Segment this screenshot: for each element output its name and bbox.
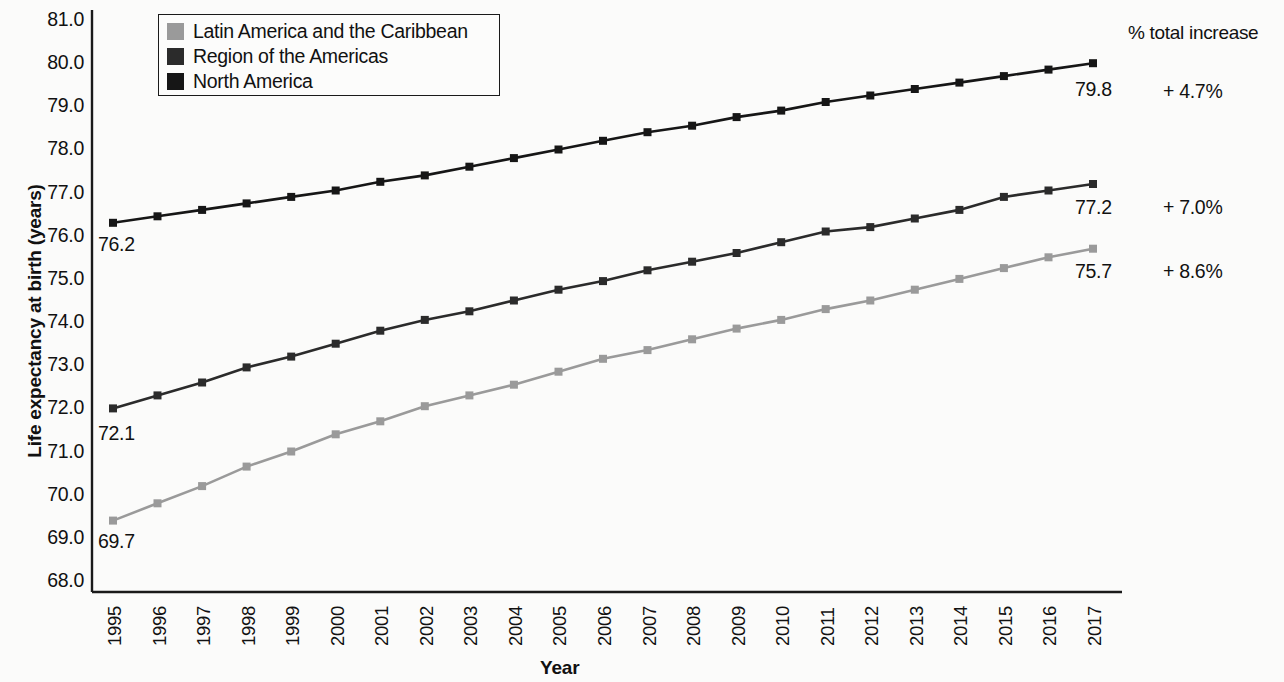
x-tick-label: 2012 bbox=[863, 606, 882, 646]
x-tick-label: 2013 bbox=[908, 606, 927, 646]
total-increase-header: % total increase bbox=[1128, 23, 1258, 42]
x-tick-label: 2016 bbox=[1041, 606, 1060, 646]
x-tick-label: 2000 bbox=[329, 606, 348, 646]
total-increase-latin-america: + 8.6% bbox=[1163, 262, 1222, 282]
end-label-latin-america: 75.7 bbox=[1075, 262, 1112, 282]
x-tick-label: 2002 bbox=[418, 606, 437, 646]
x-tick-label: 2011 bbox=[819, 607, 838, 646]
x-tick-label: 2009 bbox=[730, 606, 749, 646]
x-tick-label: 2006 bbox=[596, 606, 615, 646]
x-tick-label: 2007 bbox=[641, 606, 660, 646]
start-label-latin-america: 69.7 bbox=[98, 532, 135, 552]
end-label-north-america: 79.8 bbox=[1075, 80, 1112, 100]
total-increase-region-americas: + 7.0% bbox=[1163, 198, 1222, 218]
x-axis-title: Year bbox=[540, 657, 579, 679]
x-tick-label: 2003 bbox=[462, 606, 481, 646]
x-tick-label: 2001 bbox=[373, 606, 392, 646]
x-tick-label: 2015 bbox=[997, 606, 1016, 646]
x-tick-label: 1997 bbox=[195, 606, 214, 646]
x-tick-label: 1998 bbox=[240, 606, 259, 646]
x-tick-label: 1996 bbox=[151, 606, 170, 646]
start-label-north-america: 76.2 bbox=[98, 235, 135, 255]
x-axis-ticks: Year 19951996199719981999200020012002200… bbox=[0, 0, 1284, 682]
x-tick-label: 2017 bbox=[1086, 606, 1105, 646]
start-label-region-americas: 72.1 bbox=[98, 424, 135, 444]
x-tick-label: 2008 bbox=[685, 606, 704, 646]
x-tick-label: 2005 bbox=[551, 606, 570, 646]
x-tick-label: 1999 bbox=[284, 606, 303, 646]
x-tick-label: 1995 bbox=[106, 606, 125, 646]
x-tick-label: 2010 bbox=[774, 606, 793, 646]
x-tick-label: 2004 bbox=[507, 606, 526, 646]
x-tick-label: 2014 bbox=[952, 606, 971, 646]
total-increase-north-america: + 4.7% bbox=[1163, 82, 1222, 102]
end-label-region-americas: 77.2 bbox=[1075, 198, 1112, 218]
chart-figure: Life expectancy at birth (years) 68.069.… bbox=[0, 0, 1284, 682]
